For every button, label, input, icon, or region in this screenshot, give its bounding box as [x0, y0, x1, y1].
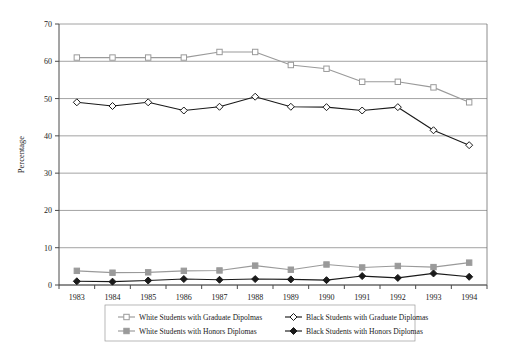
y-tick-label: 50: [44, 95, 52, 104]
x-tick-label: 1994: [461, 293, 477, 302]
data-point-marker: [395, 263, 400, 268]
data-point-marker: [288, 267, 293, 272]
marker-square: [217, 49, 222, 54]
data-point-marker: [252, 263, 257, 268]
marker-square: [181, 268, 186, 273]
y-tick-label: 10: [44, 244, 52, 253]
data-point-marker: [252, 49, 257, 54]
y-axis-title: Percentage: [16, 136, 26, 174]
data-point-marker: [74, 268, 79, 273]
marker-square: [252, 263, 257, 268]
y-tick-label: 0: [48, 281, 52, 290]
legend-label: White Students with Graduate Dipolmas: [139, 313, 262, 322]
data-point-marker: [181, 55, 186, 60]
x-tick-label: 1985: [140, 293, 156, 302]
x-tick-label: 1989: [283, 293, 299, 302]
data-point-marker: [324, 66, 329, 71]
y-tick-label: 70: [44, 20, 52, 29]
data-point-marker: [217, 268, 222, 273]
data-point-marker: [359, 265, 364, 270]
x-tick-label: 1987: [212, 293, 228, 302]
data-point-marker: [466, 100, 471, 105]
marker-square: [324, 262, 329, 267]
data-point-marker: [324, 262, 329, 267]
marker-square: [145, 270, 150, 275]
data-point-marker: [217, 49, 222, 54]
marker-square: [217, 268, 222, 273]
marker-square: [252, 49, 257, 54]
marker-square: [431, 85, 436, 90]
legend-entry: White Students with Graduate Dipolmas: [118, 313, 262, 322]
x-tick-label: 1991: [354, 293, 370, 302]
y-tick-label: 60: [44, 57, 52, 66]
x-tick-label: 1993: [426, 293, 442, 302]
marker-square: [359, 79, 364, 84]
x-tick-label: 1986: [176, 293, 192, 302]
y-tick-label: 40: [44, 132, 52, 141]
data-point-marker: [145, 270, 150, 275]
marker-square: [431, 264, 436, 269]
data-point-marker: [110, 270, 115, 275]
marker-square: [466, 100, 471, 105]
x-tick-label: 1984: [105, 293, 121, 302]
marker-square: [110, 55, 115, 60]
chart-figure: 010203040506070 198319841985198619871988…: [0, 0, 515, 354]
legend-label: Black Students with Graduate Diplomas: [306, 313, 428, 322]
data-point-marker: [74, 55, 79, 60]
marker-square: [288, 267, 293, 272]
y-tick-label: 20: [44, 206, 52, 215]
marker-square: [395, 79, 400, 84]
marker-square: [145, 55, 150, 60]
data-point-marker: [431, 264, 436, 269]
x-tick-label: 1988: [247, 293, 263, 302]
marker-square: [74, 268, 79, 273]
marker-square: [395, 263, 400, 268]
data-point-marker: [431, 85, 436, 90]
data-point-marker: [145, 55, 150, 60]
legend-label: Black Students with Honors Diplomas: [306, 327, 423, 336]
marker-square: [359, 265, 364, 270]
legend-entry: Black Students with Honors Diplomas: [285, 327, 423, 336]
x-tick-label: 1992: [390, 293, 406, 302]
data-point-marker: [359, 79, 364, 84]
data-point-marker: [181, 268, 186, 273]
legend-label: White Students with Honors Diplomas: [139, 327, 257, 336]
data-point-marker: [124, 328, 129, 333]
marker-square: [124, 314, 129, 319]
marker-square: [110, 270, 115, 275]
line-chart: 010203040506070 198319841985198619871988…: [0, 0, 515, 354]
marker-square: [74, 55, 79, 60]
marker-square: [124, 328, 129, 333]
data-point-marker: [288, 62, 293, 67]
x-tick-label: 1983: [69, 293, 85, 302]
marker-square: [288, 62, 293, 67]
marker-square: [181, 55, 186, 60]
y-tick-label: 30: [44, 169, 52, 178]
data-point-marker: [110, 55, 115, 60]
marker-square: [466, 260, 471, 265]
data-point-marker: [466, 260, 471, 265]
data-point-marker: [395, 79, 400, 84]
x-tick-label: 1990: [319, 293, 335, 302]
legend-entry: Black Students with Graduate Diplomas: [285, 313, 428, 322]
legend-entry: White Students with Honors Diplomas: [118, 327, 257, 336]
data-point-marker: [124, 314, 129, 319]
marker-square: [324, 66, 329, 71]
